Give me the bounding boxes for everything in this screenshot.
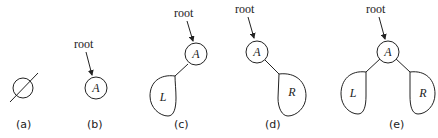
tree-node-a: A bbox=[246, 41, 268, 63]
root-arrow-icon bbox=[86, 52, 92, 75]
binary-tree-forms-diagram: (a) root A (b) root A L (c) root A bbox=[0, 0, 438, 138]
svg-text:A: A bbox=[252, 45, 261, 59]
tree-node-a: A bbox=[185, 43, 207, 65]
svg-text:A: A bbox=[91, 81, 100, 95]
right-edge bbox=[265, 60, 279, 74]
caption-a: (a) bbox=[16, 118, 31, 131]
tree-node-a: A bbox=[85, 77, 107, 99]
caption-d: (d) bbox=[265, 118, 281, 131]
left-subtree: L bbox=[150, 76, 176, 116]
left-edge bbox=[175, 64, 188, 76]
empty-set-icon bbox=[10, 73, 38, 102]
svg-text:A: A bbox=[191, 47, 200, 61]
panel-e: root A L R (e) bbox=[341, 2, 435, 131]
panel-c: root A L (c) bbox=[150, 6, 207, 131]
root-arrow-icon bbox=[248, 17, 254, 38]
root-label: root bbox=[235, 2, 255, 16]
right-subtree: R bbox=[278, 74, 306, 116]
left-subtree: L bbox=[341, 72, 366, 114]
root-arrow-icon bbox=[187, 21, 193, 41]
svg-text:L: L bbox=[159, 90, 167, 104]
right-subtree: R bbox=[410, 72, 435, 114]
panel-a: (a) bbox=[10, 73, 38, 131]
caption-c: (c) bbox=[174, 118, 189, 131]
right-edge bbox=[395, 58, 410, 72]
root-label: root bbox=[74, 37, 94, 51]
caption-e: (e) bbox=[389, 118, 404, 131]
panel-d: root A R (d) bbox=[235, 2, 306, 131]
svg-text:L: L bbox=[349, 86, 357, 100]
left-edge bbox=[366, 58, 381, 72]
tree-node-a: A bbox=[377, 41, 399, 63]
root-label: root bbox=[174, 6, 194, 20]
root-arrow-icon bbox=[379, 17, 385, 39]
caption-b: (b) bbox=[87, 118, 103, 131]
svg-text:A: A bbox=[383, 45, 392, 59]
svg-text:R: R bbox=[287, 85, 296, 99]
root-label: root bbox=[366, 2, 386, 16]
svg-text:R: R bbox=[418, 86, 427, 100]
panel-b: root A (b) bbox=[74, 37, 107, 131]
